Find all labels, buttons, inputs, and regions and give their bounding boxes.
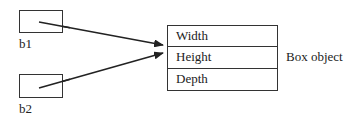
field-depth: Depth [168,69,277,90]
reference-label-b1: b1 [19,36,32,52]
box-object: Width Height Depth [167,25,278,91]
box-object-label: Box object [286,49,343,65]
field-height: Height [168,47,277,68]
field-width: Width [168,26,277,47]
reference-box-b1 [19,10,63,33]
reference-box-b2 [19,74,63,98]
reference-label-b2: b2 [19,101,32,117]
